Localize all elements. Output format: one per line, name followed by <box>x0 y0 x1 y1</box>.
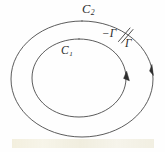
outer-curve-label-base: C <box>82 2 90 16</box>
cut-label-gamma: Γ <box>125 38 132 50</box>
cut-label-negative-gamma: −Γ <box>102 28 116 40</box>
figure-canvas: C2 C1 −Γ Γ <box>0 0 165 152</box>
outer-curve-label-subscript: 2 <box>91 8 95 17</box>
inner-curve-label-subscript: 1 <box>69 50 73 58</box>
inner-curve-c1 <box>32 39 126 117</box>
inner-curve-label-base: C <box>61 44 69 56</box>
outer-curve-arrowhead-icon <box>150 65 154 76</box>
inner-curve-arrowhead-icon <box>124 71 130 81</box>
inner-curve-label-c1: C1 <box>61 45 73 58</box>
outer-curve-label-c2: C2 <box>82 3 95 17</box>
annulus-diagram-svg <box>0 0 165 152</box>
